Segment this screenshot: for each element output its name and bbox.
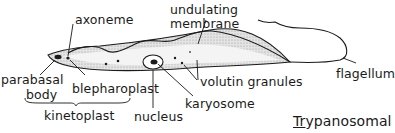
karyosome bbox=[151, 60, 158, 65]
label-blepharoplast: blepharoplast bbox=[72, 82, 159, 95]
label-karyosome: karyosome bbox=[185, 97, 255, 110]
label-kinetoplast: kinetoplast bbox=[44, 109, 114, 122]
figure-title: Trypanosomal bbox=[293, 115, 392, 128]
label-parabasal-body-line1: parabasal bbox=[1, 73, 64, 86]
figure-title-underlined: Tr bbox=[293, 113, 305, 129]
label-undulating-membrane-line2: membrane bbox=[170, 17, 239, 30]
label-parabasal-body-line2: body bbox=[26, 88, 57, 101]
parabasal-body bbox=[55, 55, 62, 59]
label-volutin-granules: volutin granules bbox=[200, 75, 303, 88]
label-undulating-membrane-line1: undulating bbox=[170, 3, 238, 16]
blepharoplast bbox=[66, 56, 69, 59]
label-nucleus: nucleus bbox=[134, 110, 183, 123]
label-axoneme: axoneme bbox=[75, 13, 134, 26]
label-flagellum: flagellum bbox=[336, 67, 395, 80]
figure-title-rest: ypanosomal bbox=[305, 113, 391, 129]
